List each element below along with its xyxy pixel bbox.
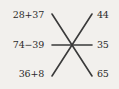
answer-1[interactable]: 44	[97, 10, 109, 20]
answer-row: 44	[97, 0, 109, 30]
answer-3[interactable]: 65	[97, 69, 109, 79]
expression-3[interactable]: 36+8	[19, 69, 44, 79]
answer-row: 35	[97, 30, 109, 60]
connector-top-right-to-bottom-left	[52, 14, 92, 76]
expression-2[interactable]: 74−39	[13, 40, 44, 50]
answer-column: 44 35 65	[93, 0, 119, 89]
expression-1[interactable]: 28+37	[13, 10, 44, 20]
expression-row: 28+37	[13, 0, 44, 30]
answer-2[interactable]: 35	[97, 40, 109, 50]
connector-top-left-to-bottom-right	[52, 14, 92, 76]
matching-exercise: 28+37 74−39 36+8 44 35 65	[0, 0, 119, 89]
expression-row: 74−39	[13, 30, 44, 60]
answer-row: 65	[97, 59, 109, 89]
expression-column: 28+37 74−39 36+8	[0, 0, 48, 89]
expression-row: 36+8	[19, 59, 44, 89]
